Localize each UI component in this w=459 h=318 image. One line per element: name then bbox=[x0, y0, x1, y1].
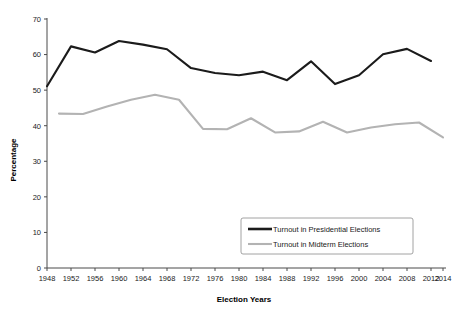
x-tick-label: 1964 bbox=[135, 274, 152, 283]
y-tick-label: 10 bbox=[33, 228, 41, 237]
x-tick-label: 1976 bbox=[207, 274, 224, 283]
x-tick-label: 2000 bbox=[351, 274, 368, 283]
series-line-presidential bbox=[47, 41, 431, 86]
y-tick-label: 70 bbox=[33, 15, 41, 24]
x-tick-label: 1968 bbox=[159, 274, 176, 283]
x-tick-label: 2004 bbox=[375, 274, 392, 283]
y-tick-label: 0 bbox=[37, 264, 41, 273]
series-group bbox=[47, 41, 443, 137]
x-tick-label: 1972 bbox=[183, 274, 200, 283]
y-tick-label: 60 bbox=[33, 50, 41, 59]
x-tick-label: 1960 bbox=[111, 274, 128, 283]
x-axis: 1948195219561960196419681972197619801984… bbox=[39, 268, 452, 283]
x-tick-label: 1984 bbox=[255, 274, 272, 283]
x-tick-label: 2008 bbox=[399, 274, 416, 283]
x-tick-label: 1956 bbox=[87, 274, 104, 283]
chart-legend: Turnout in Presidential ElectionsTurnout… bbox=[241, 218, 413, 254]
y-tick-label: 50 bbox=[33, 86, 41, 95]
x-axis-title: Election Years bbox=[217, 295, 272, 304]
y-axis: 010203040506070 bbox=[33, 15, 47, 273]
y-tick-label: 20 bbox=[33, 193, 41, 202]
series-line-midterm bbox=[59, 95, 443, 138]
x-tick-label: 1988 bbox=[279, 274, 296, 283]
chart-container: 010203040506070 194819521956196019641968… bbox=[0, 0, 459, 318]
legend-label-presidential: Turnout in Presidential Elections bbox=[273, 225, 381, 234]
x-tick-label: 1952 bbox=[63, 274, 80, 283]
x-tick-label: 1948 bbox=[39, 274, 56, 283]
y-tick-label: 30 bbox=[33, 157, 41, 166]
x-tick-label: 2014 bbox=[435, 274, 452, 283]
legend-label-midterm: Turnout in Midterm Elections bbox=[273, 240, 368, 249]
x-tick-label: 1992 bbox=[303, 274, 320, 283]
line-chart: 010203040506070 194819521956196019641968… bbox=[0, 0, 459, 318]
y-tick-label: 40 bbox=[33, 122, 41, 131]
x-tick-group: 1948195219561960196419681972197619801984… bbox=[39, 268, 452, 283]
x-tick-label: 1980 bbox=[231, 274, 248, 283]
y-tick-group: 010203040506070 bbox=[33, 15, 47, 273]
y-axis-title: Percentage bbox=[9, 138, 18, 182]
x-tick-label: 1996 bbox=[327, 274, 344, 283]
